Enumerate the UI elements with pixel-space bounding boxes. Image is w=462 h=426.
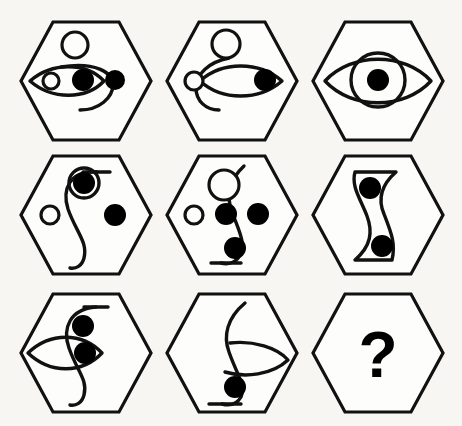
filled-dot-bottom [224, 376, 246, 398]
question-mark-label: ? [358, 319, 397, 391]
filled-dot-middle [74, 342, 96, 364]
filled-dot-mid-left [215, 203, 237, 225]
filled-dot-in-ring [73, 172, 95, 194]
filled-dot-right [105, 70, 125, 90]
small-open-circle-in-lens [43, 73, 59, 89]
matrix-figure: ? [0, 0, 462, 426]
open-circle-top [212, 30, 240, 58]
filled-dot-bottom [224, 237, 246, 259]
small-open-circle-left [185, 206, 203, 224]
open-circle-top [209, 170, 239, 200]
filled-dot-bottom [371, 235, 393, 257]
filled-dot-pupil [367, 69, 389, 91]
filled-dot-in-lens [254, 69, 276, 91]
filled-dot-right [104, 204, 126, 226]
filled-dot-top [72, 315, 94, 337]
filled-dot-center [72, 69, 94, 91]
puzzle-canvas: ? [0, 0, 462, 426]
small-open-circle-left [41, 206, 59, 224]
filled-dot-mid-right [247, 203, 269, 225]
small-open-circle-left [185, 72, 203, 90]
filled-dot-top [359, 177, 381, 199]
open-circle-top [62, 32, 88, 58]
